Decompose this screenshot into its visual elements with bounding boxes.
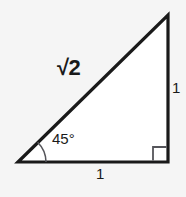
triangle-drawing — [0, 0, 186, 197]
vertical-side-label: 1 — [172, 80, 180, 95]
triangle-outline — [18, 15, 168, 162]
horizontal-side-label: 1 — [96, 166, 104, 181]
triangle-diagram: √2 45° 1 1 — [0, 0, 186, 197]
hypotenuse-label: √2 — [57, 57, 80, 79]
angle-label-45: 45° — [52, 131, 75, 146]
